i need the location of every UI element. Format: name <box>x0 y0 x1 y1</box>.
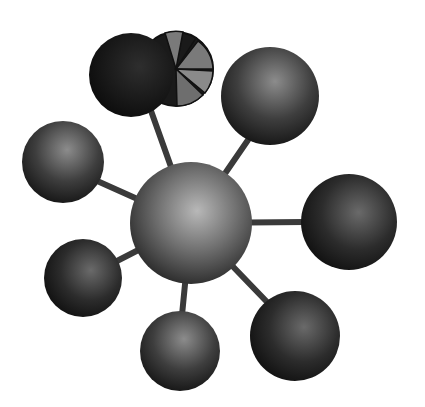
node-bottom-right <box>250 291 340 381</box>
node-lower-left <box>44 239 122 317</box>
node-bottom <box>140 311 220 391</box>
node-left <box>22 121 104 203</box>
node-hub <box>130 162 252 284</box>
network-diagram <box>0 0 425 407</box>
diagram-canvas <box>0 0 425 407</box>
node-top-left-dark <box>89 33 173 117</box>
node-right <box>301 174 397 270</box>
node-top-right <box>221 47 319 145</box>
